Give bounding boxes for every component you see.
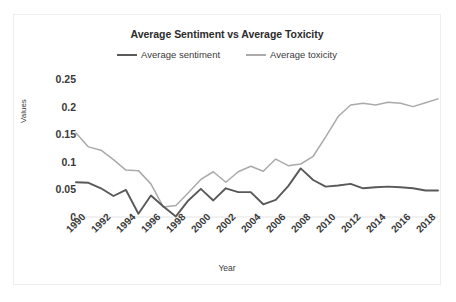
- x-axis-tick-label: 2000: [189, 211, 213, 235]
- chart-card: Average Sentiment vs Average Toxicity Av…: [13, 14, 441, 285]
- x-axis-tick-label: 1996: [139, 211, 163, 235]
- x-axis-tick-label: 2002: [214, 211, 238, 235]
- x-axis-tick-label: 2008: [289, 211, 313, 235]
- x-axis-tick-labels: 1990199219941996199820002002200420062008…: [14, 15, 440, 284]
- x-axis-tick-label: 1998: [164, 211, 188, 235]
- x-axis-tick-label: 2018: [414, 211, 438, 235]
- x-axis-tick-label: 1994: [114, 211, 138, 235]
- x-axis-tick-label: 1990: [64, 211, 88, 235]
- x-axis-title: Year: [14, 263, 440, 273]
- x-axis-tick-label: 2006: [264, 211, 288, 235]
- x-axis-tick-label: 2010: [314, 211, 338, 235]
- x-axis-tick-label: 2004: [239, 211, 263, 235]
- x-axis-tick-label: 2014: [364, 211, 388, 235]
- x-axis-tick-label: 2012: [339, 211, 363, 235]
- x-axis-tick-label: 1992: [89, 211, 113, 235]
- plot-area: Values 00.050.10.150.20.25 1990199219941…: [14, 15, 440, 284]
- x-axis-tick-label: 2016: [389, 211, 413, 235]
